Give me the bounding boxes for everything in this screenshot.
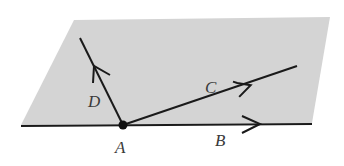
label-C: C bbox=[205, 78, 217, 97]
geometry-diagram: D C B A bbox=[0, 0, 344, 166]
label-B: B bbox=[215, 131, 226, 150]
label-D: D bbox=[87, 92, 101, 111]
label-A: A bbox=[114, 138, 126, 157]
point-A bbox=[119, 121, 128, 130]
